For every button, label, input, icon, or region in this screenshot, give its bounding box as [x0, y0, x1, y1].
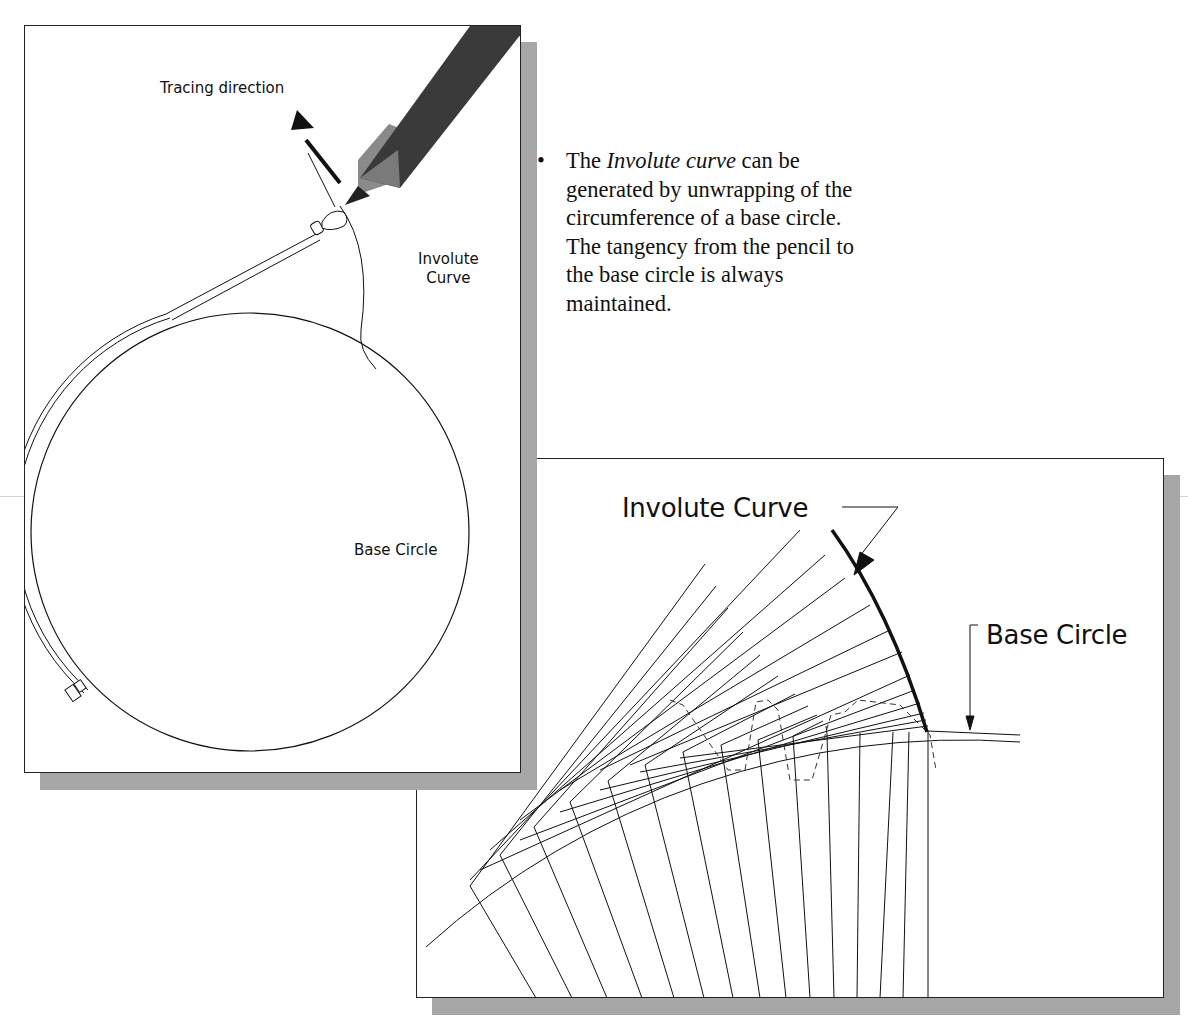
base-circle-label-left: Base Circle	[354, 541, 437, 559]
involute-curve-term: Involute curve	[607, 148, 736, 173]
tracing-direction-arrow	[306, 140, 340, 183]
tracing-direction-label: Tracing direction	[160, 79, 284, 97]
involute-description: • The Involute curve can be generated by…	[541, 147, 881, 318]
involute-label-line2: Curve	[418, 269, 479, 288]
pencil-icon	[345, 26, 521, 205]
string-anchor-icon	[65, 680, 86, 702]
string-wrap-inner	[16, 318, 170, 690]
string-knot-icon	[310, 211, 347, 236]
base-circle	[31, 313, 469, 751]
tracing-arrow-head-icon	[291, 110, 314, 130]
involute-curve-label-left: Involute Curve	[418, 250, 479, 288]
bullet-icon: •	[537, 147, 545, 176]
string-wrap-outer	[11, 314, 166, 693]
involute-label-line1: Involute	[418, 250, 479, 269]
bullet-paragraph: The Involute curve can be generated by u…	[566, 147, 881, 318]
involute-curve-traced	[340, 206, 376, 369]
